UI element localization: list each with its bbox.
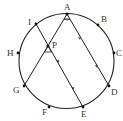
angle-mark-A bbox=[64, 19, 70, 20]
point-H bbox=[17, 52, 20, 55]
point-B bbox=[97, 24, 100, 27]
segment-IE bbox=[36, 24, 83, 107]
label-I: I bbox=[28, 17, 31, 27]
point-F bbox=[48, 106, 51, 109]
circle bbox=[19, 14, 114, 109]
point-G bbox=[23, 85, 26, 88]
segment-AD bbox=[67, 14, 109, 86]
label-D: D bbox=[111, 87, 118, 97]
label-A: A bbox=[64, 2, 71, 12]
label-H: H bbox=[7, 48, 14, 58]
point-C bbox=[113, 52, 116, 55]
label-G: G bbox=[13, 85, 20, 95]
point-P bbox=[47, 45, 50, 48]
circle-diagram: A B C D E F G H I P bbox=[0, 0, 123, 121]
label-B: B bbox=[101, 14, 107, 24]
label-P: P bbox=[52, 40, 57, 50]
label-F: F bbox=[42, 107, 47, 117]
point-D bbox=[108, 85, 111, 88]
point-A bbox=[66, 13, 69, 16]
parallel-mark-AD bbox=[79, 37, 98, 68]
parallel-mark-IE bbox=[57, 60, 74, 90]
label-C: C bbox=[116, 48, 122, 58]
label-E: E bbox=[81, 109, 87, 119]
point-E bbox=[82, 106, 85, 109]
point-I bbox=[35, 23, 38, 26]
